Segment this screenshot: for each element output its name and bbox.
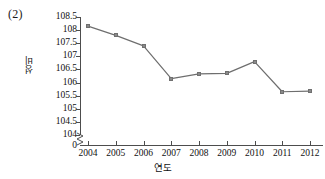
x-axis-tick-mark [255, 141, 256, 145]
data-point-marker [114, 33, 118, 37]
x-axis-tick-label: 2009 [217, 148, 236, 158]
data-point-marker [169, 77, 173, 81]
x-axis-tick-label: 2007 [162, 148, 181, 158]
data-point-marker [86, 24, 90, 28]
x-axis-tick-mark [88, 141, 89, 145]
y-axis-tick-mark [76, 43, 80, 44]
data-point-marker [253, 60, 257, 64]
y-axis-tick-mark [76, 122, 80, 123]
y-axis-tick-mark [76, 17, 80, 18]
y-axis-tick-mark [76, 109, 80, 110]
x-axis-tick-label: 2012 [301, 148, 320, 158]
x-axis-tick-label: 2004 [79, 148, 98, 158]
x-axis-tick-mark [144, 141, 145, 145]
x-axis-tick-mark [227, 141, 228, 145]
data-point-marker [225, 71, 229, 75]
x-axis-tick-mark [199, 141, 200, 145]
y-axis-tick-mark [76, 56, 80, 57]
x-axis-tick-mark [116, 141, 117, 145]
y-axis-tick-mark [76, 83, 80, 84]
y-axis-tick-mark [76, 69, 80, 70]
x-axis-tick-mark [310, 141, 311, 145]
x-axis-tick-mark [171, 141, 172, 145]
x-axis-tick-label: 2008 [190, 148, 209, 158]
data-point-marker [308, 89, 312, 93]
y-axis-tick-mark [76, 96, 80, 97]
x-axis-tick-label: 2006 [134, 148, 153, 158]
x-axis-tick-mark [282, 141, 283, 145]
x-axis-tick-label: 2010 [245, 148, 264, 158]
chart-figure: (2) 성비 108.5108107.5107106.5106105.51051… [0, 0, 325, 179]
x-axis-tick-label: 2011 [273, 148, 292, 158]
y-axis-tick-mark [76, 30, 80, 31]
x-axis-tick-label: 2005 [106, 148, 125, 158]
y-axis-tick-mark [76, 135, 80, 136]
data-point-marker [280, 90, 284, 94]
data-point-marker [197, 72, 201, 76]
data-point-marker [142, 44, 146, 48]
